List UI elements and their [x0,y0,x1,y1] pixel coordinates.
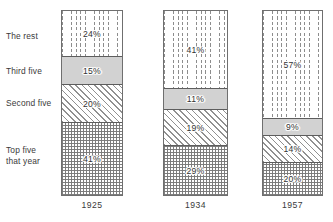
stacked-bar-chart: The rest Third five Second five Top five… [0,0,333,222]
segment-value: 29% [186,166,204,176]
segment-value: 11% [187,94,204,104]
x-axis-label-1957: 1957 [262,200,323,210]
bar-1934: 41% 11% 19% 29% [163,10,228,196]
segment-value: 9% [286,122,299,132]
bar-1925: 24% 15% 20% 41% [61,10,123,196]
segment-third-five-1957: 9% [263,119,322,135]
segment-value: 20% [283,174,301,184]
row-label-third-five: Third five [6,66,60,77]
segment-value: 41% [186,45,204,55]
segment-third-five-1934: 11% [164,89,227,109]
segment-the-rest-1957-label: 57% [263,11,322,118]
x-axis-label-1934: 1934 [163,200,228,210]
segment-second-five-1957: 14% [263,136,322,162]
segment-second-five-1934: 19% [164,110,227,145]
row-label-second-five: Second five [6,98,60,109]
segment-the-rest-1934-label: 41% [164,11,227,88]
bar-1957: 57% 9% 14% 20% [262,10,323,196]
x-axis-label-1925: 1925 [61,200,123,210]
segment-value: 14% [283,144,301,154]
segment-top-five-1957: 20% [263,163,322,195]
segment-value: 20% [83,99,101,109]
segment-value: 57% [283,60,301,70]
segment-value: 24% [83,29,101,39]
segment-top-five-1934: 29% [164,146,227,195]
row-label-top-five-that-year: Top five that year [6,145,60,166]
segment-the-rest-1925-label: 24% [62,11,122,56]
segment-value: 41% [83,154,101,164]
segment-top-five-1925: 41% [62,123,122,195]
row-label-the-rest: The rest [6,31,60,42]
segment-value: 15% [83,66,101,76]
segment-value: 19% [186,123,204,133]
segment-third-five-1925: 15% [62,57,122,84]
segment-second-five-1925: 20% [62,85,122,122]
